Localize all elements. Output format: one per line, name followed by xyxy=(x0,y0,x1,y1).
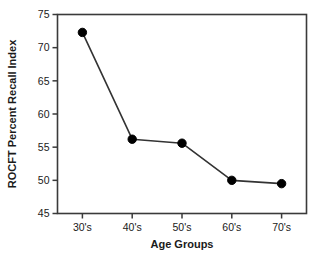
x-axis-title: Age Groups xyxy=(151,238,214,250)
y-tick-label: 60 xyxy=(38,108,50,120)
y-tick-label: 55 xyxy=(38,141,50,153)
y-tick-label: 65 xyxy=(38,75,50,87)
x-tick-label: 60's xyxy=(222,221,241,233)
plot-area-frame xyxy=(58,15,307,214)
data-point-marker xyxy=(178,139,186,147)
data-point-marker xyxy=(128,135,136,143)
y-tick-label: 45 xyxy=(38,207,50,219)
chart-figure: 45505560657075 30's40's50's60's70's Age … xyxy=(0,0,327,261)
x-tick-label: 50's xyxy=(173,221,192,233)
data-point-marker xyxy=(277,179,285,187)
data-point-marker xyxy=(78,28,86,36)
y-tick-label: 75 xyxy=(38,8,50,20)
x-tick-label: 30's xyxy=(73,221,92,233)
x-tick-label: 70's xyxy=(272,221,291,233)
y-axis-title: ROCFT Percent Recall Index xyxy=(6,39,18,188)
y-tick-label: 70 xyxy=(38,41,50,53)
y-tick-label: 50 xyxy=(38,174,50,186)
x-tick-label: 40's xyxy=(123,221,142,233)
line-chart: 45505560657075 30's40's50's60's70's Age … xyxy=(0,0,327,261)
data-point-marker xyxy=(228,176,236,184)
